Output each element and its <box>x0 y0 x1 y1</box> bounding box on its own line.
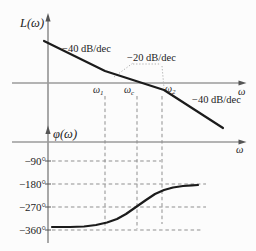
marker-omega-c: ωc <box>124 84 135 97</box>
marker-omega-1: ω1 <box>93 84 104 97</box>
magnitude-xaxis-arrowhead <box>239 81 247 86</box>
phase-x-axis-label: ω <box>236 144 243 155</box>
phase-curve <box>52 185 198 227</box>
leader-dotted-vertical <box>162 66 164 88</box>
slope-label-20db: −20 dB/dec <box>127 52 176 63</box>
phase-yaxis-arrowhead <box>45 126 50 135</box>
phase-y-axis-label: φ(ω) <box>53 127 77 141</box>
magnitude-yaxis-arrowhead <box>45 13 50 22</box>
slope-label-first-40db: −40 dB/dec <box>62 43 111 54</box>
slope-label-second-40db: −40 dB/dec <box>192 94 241 105</box>
phase-tick-minus-90: −90° <box>24 155 46 167</box>
figure-labels: L(ω) ω −40 dB/dec −20 dB/dec −40 dB/dec … <box>19 16 246 236</box>
axes-and-gridlines <box>12 17 241 243</box>
magnitude-y-axis-label: L(ω) <box>19 16 44 30</box>
bode-plot-figure: L(ω) ω −40 dB/dec −20 dB/dec −40 dB/dec … <box>0 0 256 251</box>
phase-tick-minus-270: −270° <box>19 201 46 213</box>
phase-tick-minus-180: −180° <box>19 178 46 190</box>
phase-tick-minus-360: −360° <box>19 224 46 236</box>
bode-plot-canvas: L(ω) ω −40 dB/dec −20 dB/dec −40 dB/dec … <box>0 0 256 251</box>
